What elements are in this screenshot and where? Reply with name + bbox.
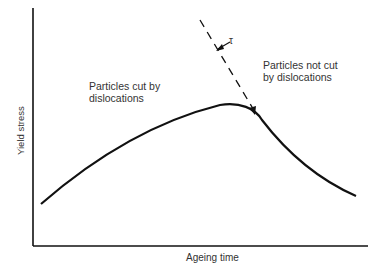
dashed-boundary-line: [200, 20, 255, 112]
diagram-canvas: [0, 0, 374, 265]
y-axis-label: Yield stress: [15, 106, 26, 155]
arrowhead-icon: [249, 106, 256, 115]
notcut-label-line2: by dislocations: [263, 71, 332, 83]
tau-arrow-icon: [216, 44, 224, 51]
cut-label-line2: dislocations: [89, 92, 144, 104]
notcut-label-line1: Particles not cut: [263, 59, 338, 71]
cut-label-line1: Particles cut by: [89, 80, 160, 92]
tau-label: τ: [229, 35, 233, 47]
x-axis-label: Ageing time: [186, 252, 239, 264]
diagram: τ Particles cut by dislocations Particle…: [0, 0, 374, 265]
yield-stress-curve: [41, 104, 356, 204]
